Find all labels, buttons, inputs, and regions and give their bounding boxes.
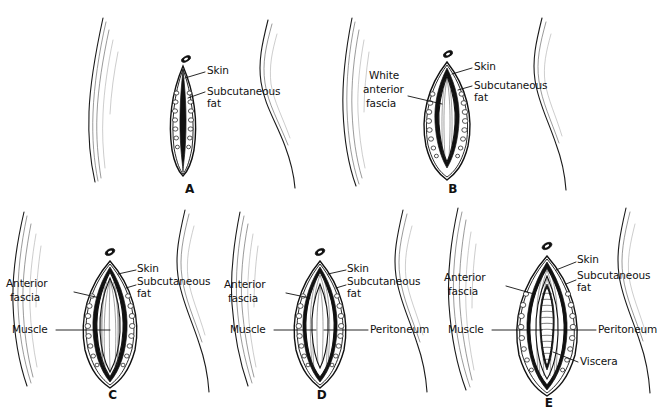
incision-wound-b: [424, 62, 470, 180]
label-skin-d: Skin: [347, 263, 369, 275]
label-subcutaneous-d: Subcutaneous: [347, 276, 420, 288]
label-anterior-b: anterior: [363, 84, 404, 96]
label-anterior-e: Anterior: [444, 272, 486, 284]
label-fat-c: fat: [137, 288, 151, 300]
label-muscle-d: Muscle: [230, 324, 266, 336]
label-peritoneum-d: Peritoneum: [370, 324, 429, 336]
umbilicus-icon: [180, 54, 191, 63]
umbilicus-icon: [104, 247, 116, 257]
label-skin-e: Skin: [577, 254, 599, 266]
panel-letter-d: D: [312, 388, 332, 402]
label-fascia-d: fascia: [228, 293, 258, 305]
label-subcutaneous-b: Subcutaneous: [474, 80, 547, 92]
label-fascia-b: fascia: [366, 98, 396, 110]
panel-letter-c: C: [103, 388, 123, 402]
panel-letter-a: A: [180, 182, 200, 196]
label-fascia-e: fascia: [448, 286, 478, 298]
label-fat-b: fat: [474, 92, 488, 104]
panel-letter-e: E: [539, 396, 559, 410]
label-skin-a: Skin: [207, 65, 229, 77]
label-fascia-c: fascia: [10, 292, 40, 304]
umbilicus-icon: [541, 241, 553, 251]
label-skin-b: Skin: [474, 61, 496, 73]
incision-wound-a: [170, 66, 195, 176]
label-subcutaneous-c: Subcutaneous: [137, 276, 210, 288]
right-flank-contour: [618, 208, 650, 393]
left-flank-contour: [448, 208, 476, 390]
label-viscera-e: Viscera: [580, 356, 618, 368]
label-anterior-c: Anterior: [6, 278, 48, 290]
panel-a-artwork: [0, 0, 330, 200]
label-fat-e: fat: [577, 282, 591, 294]
label-subcutaneous-e: Subcutaneous: [577, 270, 650, 282]
label-anterior-d: Anterior: [224, 279, 266, 291]
label-skin-c: Skin: [137, 263, 159, 275]
panel-c: Skin Subcutaneous fat Anterior fascia Mu…: [0, 200, 220, 401]
label-fat-a: fat: [207, 98, 221, 110]
panel-e-artwork: [440, 200, 660, 401]
umbilicus-icon: [442, 49, 453, 59]
right-flank-contour: [395, 210, 427, 392]
right-flank-contour: [260, 20, 295, 188]
panel-b: Skin Subcutaneous fat White anterior fas…: [330, 0, 660, 200]
right-flank-contour: [177, 210, 209, 392]
panel-a: Skin Subcutaneous fat A: [0, 0, 330, 200]
label-peritoneum-e: Peritoneum: [598, 324, 657, 336]
panel-d: Skin Subcutaneous fat Peritoneum Anterio…: [220, 200, 440, 401]
incision-wound-c: [83, 261, 137, 388]
label-subcutaneous-a: Subcutaneous: [207, 86, 280, 98]
incision-wound-e: [517, 256, 577, 396]
label-muscle-c: Muscle: [12, 324, 48, 336]
label-muscle-e: Muscle: [448, 324, 484, 336]
label-fat-d: fat: [347, 288, 361, 300]
panel-e: Skin Subcutaneous fat Peritoneum Viscera…: [440, 200, 660, 401]
label-white-b: White: [369, 70, 399, 82]
umbilicus-icon: [314, 247, 326, 257]
panel-letter-b: B: [443, 182, 463, 196]
left-flank-contour: [89, 18, 118, 182]
right-flank-contour: [534, 18, 566, 190]
incision-wound-d: [294, 261, 346, 388]
